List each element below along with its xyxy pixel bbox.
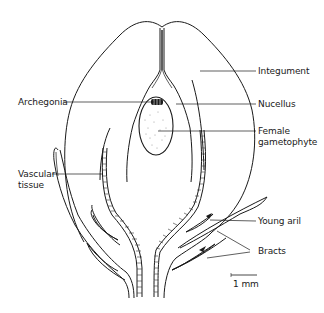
- label-vascular-2: tissue: [18, 180, 44, 190]
- integument-outline-right: [162, 22, 255, 232]
- scale-bar-label: 1 mm: [233, 279, 259, 289]
- ovule-diagram: [0, 0, 324, 313]
- vascular-rungs-left: [102, 152, 142, 293]
- label-integument: Integument: [258, 66, 309, 76]
- female-gametophyte: [139, 97, 173, 155]
- left-bract-3b: [87, 243, 118, 271]
- leader-young-aril: [210, 220, 256, 221]
- label-archegonia: Archegonia: [18, 97, 68, 107]
- vascular-rungs-right: [154, 136, 206, 292]
- label-bracts: Bracts: [258, 246, 286, 256]
- left-bract-1: [91, 210, 118, 240]
- label-nucellus: Nucellus: [258, 99, 296, 109]
- left-bract-3: [87, 243, 125, 280]
- scale-bar: [231, 273, 257, 277]
- label-female-2: gametophyte: [258, 137, 317, 147]
- label-young-aril: Young aril: [258, 216, 301, 226]
- label-female-1: Female: [258, 126, 290, 136]
- leader-bracts-2: [207, 252, 250, 258]
- label-vascular-1: Vascular: [18, 169, 55, 179]
